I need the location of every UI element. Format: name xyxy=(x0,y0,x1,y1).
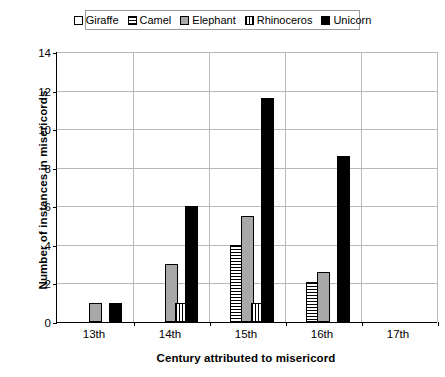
bar-chart: GiraffeCamelElephantRhinocerosUnicorn Nu… xyxy=(0,0,445,377)
bars-layer xyxy=(57,52,437,322)
chart-legend: GiraffeCamelElephantRhinocerosUnicorn xyxy=(85,10,360,30)
legend-item[interactable]: Camel xyxy=(128,15,172,26)
legend-swatch-icon xyxy=(180,16,189,25)
x-axis-tick-mark xyxy=(362,322,363,326)
bar xyxy=(317,272,330,322)
x-axis-tick-label: 14th xyxy=(159,328,181,340)
legend-item[interactable]: Unicorn xyxy=(321,15,371,26)
bar xyxy=(109,303,122,322)
legend-item[interactable]: Rhinoceros xyxy=(245,15,313,26)
category-separator xyxy=(133,52,134,322)
x-axis-tick-label: 13th xyxy=(83,328,105,340)
plot-area: 02468101214 xyxy=(56,52,437,323)
x-axis-tick-mark xyxy=(210,322,211,326)
x-axis-tick-mark xyxy=(134,322,135,326)
y-axis-tick-label: 4 xyxy=(45,240,51,252)
y-axis-tick-label: 6 xyxy=(45,201,51,213)
category-separator xyxy=(209,52,210,322)
legend-item-label: Rhinoceros xyxy=(257,15,313,26)
legend-swatch-icon xyxy=(128,16,137,25)
bar xyxy=(261,98,274,322)
x-axis-tick-label: 17th xyxy=(387,328,409,340)
y-axis-tick-label: 8 xyxy=(45,163,51,175)
y-axis-tick-label: 2 xyxy=(45,278,51,290)
legend-item-label: Giraffe xyxy=(86,15,119,26)
legend-swatch-icon xyxy=(74,16,83,25)
y-axis-tick-mark xyxy=(53,323,57,324)
legend-item-label: Unicorn xyxy=(333,15,371,26)
legend-item-label: Camel xyxy=(140,15,172,26)
x-axis-tick-mark xyxy=(438,322,439,326)
legend-item[interactable]: Giraffe xyxy=(74,15,119,26)
x-axis-tick-mark xyxy=(286,322,287,326)
y-axis-tick-label: 12 xyxy=(38,86,51,98)
legend-swatch-icon xyxy=(321,16,330,25)
x-axis-tick-label: 15th xyxy=(235,328,257,340)
bar xyxy=(89,303,102,322)
bar xyxy=(185,206,198,322)
gridline: 0 xyxy=(57,322,437,323)
category-separator xyxy=(285,52,286,322)
y-axis-tick-label: 0 xyxy=(45,317,51,329)
y-axis-tick-label: 10 xyxy=(38,124,51,136)
x-axis-tick-labels: 13th14th15th16th17th xyxy=(56,328,436,346)
x-axis-tick-label: 16th xyxy=(311,328,333,340)
legend-swatch-icon xyxy=(245,16,254,25)
legend-item-label: Elephant xyxy=(192,15,235,26)
y-axis-tick-label: 14 xyxy=(38,47,51,59)
category-separator xyxy=(361,52,362,322)
category-separator xyxy=(437,52,438,322)
bar xyxy=(337,156,350,322)
x-axis-title: Century attributed to misericord xyxy=(56,352,436,364)
legend-item[interactable]: Elephant xyxy=(180,15,235,26)
